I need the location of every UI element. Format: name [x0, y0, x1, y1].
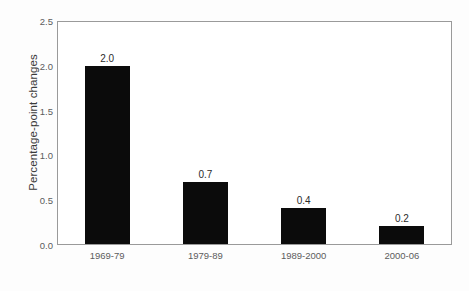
x-axis-category-label: 1979-89 [156, 250, 254, 261]
x-axis-category-label: 1969-79 [58, 250, 156, 261]
bars-container: 2.00.70.40.2 [58, 22, 451, 244]
y-axis-tick-label: 1.0 [1, 150, 53, 161]
y-axis-tick-label: 1.5 [1, 105, 53, 116]
y-axis-tick-labels: 2.52.01.51.00.50.0 [0, 21, 53, 245]
y-axis-tick-label: 0.5 [1, 195, 53, 206]
bar [281, 208, 326, 244]
bar [183, 182, 228, 244]
bar-value-label: 0.7 [183, 169, 228, 180]
bar-value-label: 2.0 [85, 53, 130, 64]
bar-group: 0.2 [379, 22, 424, 244]
bar [379, 226, 424, 244]
bar-group: 0.4 [281, 22, 326, 244]
y-axis-tick-label: 2.5 [1, 16, 53, 27]
x-axis-category-label: 1989-2000 [255, 250, 353, 261]
bar-group: 2.0 [85, 22, 130, 244]
bar-group: 0.7 [183, 22, 228, 244]
bar-value-label: 0.4 [281, 195, 326, 206]
y-axis-tick-label: 0.0 [1, 240, 53, 251]
x-axis-category-label: 2000-06 [353, 250, 451, 261]
bar-chart: Percentage-point changes 2.52.01.51.00.5… [0, 0, 469, 291]
bar-value-label: 0.2 [379, 213, 424, 224]
bar [85, 66, 130, 244]
x-axis-category-labels: 1969-791979-891989-20002000-06 [58, 250, 451, 268]
y-axis-tick-label: 2.0 [1, 60, 53, 71]
